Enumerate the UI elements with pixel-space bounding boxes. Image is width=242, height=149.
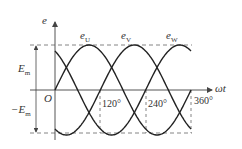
curve-label-ew: eW [166, 30, 178, 44]
tick-label-240: 240° [148, 99, 167, 109]
tick-label-360: 360° [194, 96, 213, 106]
three-phase-waveform-diagram [0, 0, 242, 149]
neg-em-label: −Em [11, 104, 31, 118]
curve-label-ev: eV [121, 30, 131, 44]
x-axis-label: ωt [215, 83, 226, 94]
tick-label-120: 120° [102, 99, 121, 109]
curve-label-eu: eU [80, 30, 90, 44]
origin-label: O [44, 93, 52, 104]
y-axis-label: e [42, 15, 47, 26]
em-label: Em [18, 63, 30, 77]
